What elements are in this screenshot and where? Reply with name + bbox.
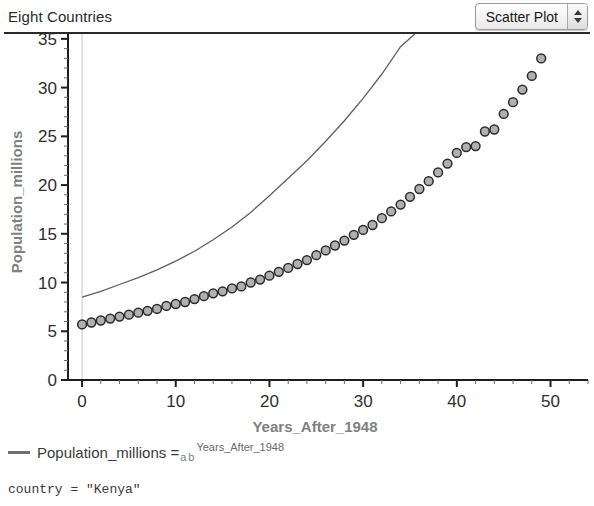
scatter-plot-svg: 0510152025303501020304050 Years_After_19… [0,34,594,438]
legend-exponent: Years_After_1948 [196,441,284,453]
svg-text:35: 35 [38,34,57,49]
fit-curve [82,34,415,297]
x-axis-title: Years_After_1948 [252,418,377,435]
data-points[interactable] [78,54,546,329]
svg-text:15: 15 [38,225,57,244]
page-title: Eight Countries [8,8,112,25]
svg-text:10: 10 [166,392,185,411]
plot-type-stepper[interactable] [567,4,587,29]
chevron-down-icon[interactable] [574,18,582,23]
legend-line-marker [8,451,30,454]
svg-text:0: 0 [48,371,57,390]
svg-text:10: 10 [38,274,57,293]
legend-coef-a: a [180,451,186,463]
gridlines [68,34,588,380]
svg-text:50: 50 [541,392,560,411]
svg-text:30: 30 [354,392,373,411]
axis-tick-labels: 0510152025303501020304050 [38,34,560,411]
svg-text:30: 30 [38,79,57,98]
svg-text:20: 20 [260,392,279,411]
legend-equation-lhs: Population_millions = [37,444,179,461]
y-axis-title: Population_millions [8,131,25,274]
chevron-up-icon[interactable] [574,10,582,15]
plot-type-value[interactable]: Scatter Plot [476,4,567,29]
svg-text:40: 40 [447,392,466,411]
window-header: Eight Countries Scatter Plot [0,0,594,34]
svg-text:5: 5 [48,322,57,341]
chart-canvas[interactable]: 0510152025303501020304050 Years_After_19… [0,34,594,438]
legend-coef-b: b [188,451,194,463]
plot-type-spinner[interactable]: Scatter Plot [475,3,588,30]
svg-text:0: 0 [77,392,86,411]
axes [61,34,588,387]
svg-text:25: 25 [38,127,57,146]
legend: Population_millions = a b Years_After_19… [8,444,284,461]
status-text: country = "Kenya" [8,482,141,497]
svg-text:20: 20 [38,176,57,195]
